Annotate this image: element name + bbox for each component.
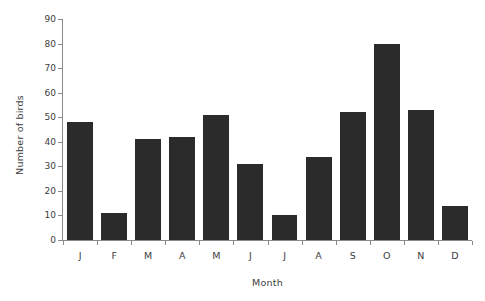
bar-slot: [268, 19, 302, 240]
x-axis-title: Month: [63, 277, 472, 288]
x-axis-tick-label: N: [404, 250, 438, 262]
bar-chart: Number of birds 0102030405060708090 JFMA…: [0, 0, 485, 301]
x-axis-tick-mark: [438, 241, 439, 245]
bar[interactable]: [169, 137, 195, 240]
x-axis-tick-mark: [472, 241, 473, 245]
x-axis-tick-label: S: [336, 250, 370, 262]
bar-slot: [63, 19, 97, 240]
x-axis-tick-mark: [165, 241, 166, 245]
x-axis-tick-mark: [199, 241, 200, 245]
x-axis-tick-label: J: [268, 250, 302, 262]
x-axis-tick-mark: [336, 241, 337, 245]
y-axis-tick-label: 20: [36, 186, 56, 196]
y-axis-tick-label: 60: [36, 88, 56, 98]
y-axis-tick-label: 70: [36, 63, 56, 73]
bar-slot: [370, 19, 404, 240]
x-axis-tick-mark: [233, 241, 234, 245]
x-axis-tick-mark: [63, 241, 64, 245]
y-axis-tick-label: 90: [36, 14, 56, 24]
x-axis-tick-label: M: [199, 250, 233, 262]
y-axis-tick-label: 0: [36, 235, 56, 245]
bar[interactable]: [203, 115, 229, 240]
y-axis-tick-label: 40: [36, 137, 56, 147]
y-axis-tick-labels: 0102030405060708090: [36, 15, 56, 247]
x-axis-tick-mark: [131, 241, 132, 245]
y-axis-title: Number of birds: [14, 15, 28, 255]
x-axis-tick-label: M: [131, 250, 165, 262]
x-axis-tick-mark: [370, 241, 371, 245]
bar[interactable]: [374, 44, 400, 240]
bar[interactable]: [67, 122, 93, 240]
bar[interactable]: [237, 164, 263, 240]
bar[interactable]: [408, 110, 434, 240]
x-axis-tick-mark: [268, 241, 269, 245]
bar[interactable]: [272, 215, 298, 240]
x-axis-tick-mark: [302, 241, 303, 245]
bar-slot: [165, 19, 199, 240]
x-axis-tick-label: D: [438, 250, 472, 262]
bar-slot: [97, 19, 131, 240]
x-axis-tick-label: J: [233, 250, 267, 262]
x-axis-tick-labels: JFMAMJJASOND: [63, 250, 472, 264]
x-axis-tick-label: A: [165, 250, 199, 262]
y-axis-tick-label: 10: [36, 210, 56, 220]
x-axis-tick-marks: [63, 241, 472, 246]
y-axis-tick-label: 80: [36, 39, 56, 49]
x-axis-tick-label: J: [63, 250, 97, 262]
bar-slot: [302, 19, 336, 240]
bar-slot: [233, 19, 267, 240]
bar-slot: [131, 19, 165, 240]
x-axis-tick-label: O: [370, 250, 404, 262]
bar[interactable]: [442, 206, 468, 240]
y-axis-tick-label: 50: [36, 112, 56, 122]
bar-slot: [404, 19, 438, 240]
plot-area: [63, 19, 472, 240]
x-axis-tick-mark: [97, 241, 98, 245]
bar[interactable]: [135, 139, 161, 240]
bar[interactable]: [101, 213, 127, 240]
bar[interactable]: [306, 157, 332, 240]
bar-slot: [336, 19, 370, 240]
x-axis-tick-label: A: [302, 250, 336, 262]
x-axis-tick-label: F: [97, 250, 131, 262]
x-axis-tick-mark: [404, 241, 405, 245]
y-axis-tick-label: 30: [36, 161, 56, 171]
bar-slot: [199, 19, 233, 240]
bar[interactable]: [340, 112, 366, 240]
bar-slot: [438, 19, 472, 240]
